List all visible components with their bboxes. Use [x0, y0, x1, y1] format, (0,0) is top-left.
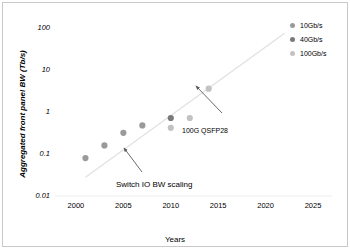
legend-item-label: 40Gb/s	[300, 36, 323, 43]
x-tick-label: 2015	[198, 201, 238, 210]
x-tick-label: 2010	[151, 201, 191, 210]
legend-item-label: 100Gb/s	[300, 50, 326, 57]
legend-marker-icon	[290, 51, 295, 56]
annotation-qsfp28-text: 100G QSFP28	[182, 127, 228, 134]
annotation-switch-io-text: Switch IO BW scaling	[116, 180, 192, 189]
x-axis-title: Years	[130, 228, 220, 246]
legend-marker-icon	[290, 23, 295, 28]
x-tick-label: 2020	[246, 201, 286, 210]
x-tick-label: 2025	[293, 201, 333, 210]
chart-legend: 10Gb/s40Gb/s100Gb/s	[290, 18, 326, 60]
legend-item-label: 10Gb/s	[300, 22, 323, 29]
x-axis-title-text: Years	[165, 235, 185, 244]
annotation-switch-io: Switch IO BW scaling	[116, 173, 192, 191]
legend-marker-icon	[290, 37, 295, 42]
y-axis-title-text: Aggregated front panel BW (Tb/s)	[18, 50, 27, 178]
y-axis-title: Aggregated front panel BW (Tb/s)	[11, 24, 29, 204]
chart-container: 0.010.1110100 200020052010201520202025 A…	[0, 0, 350, 249]
x-tick-label: 2005	[103, 201, 143, 210]
annotation-qsfp28: 100G QSFP28	[182, 119, 228, 137]
legend-item: 40Gb/s	[290, 32, 326, 46]
x-tick-label: 2000	[56, 201, 96, 210]
legend-item: 100Gb/s	[290, 46, 326, 60]
legend-item: 10Gb/s	[290, 18, 326, 32]
